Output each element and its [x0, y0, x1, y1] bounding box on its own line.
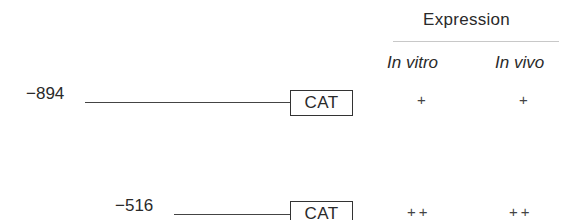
cat-reporter-box: CAT — [290, 201, 353, 220]
column-in-vitro: In vitro — [387, 53, 438, 73]
expression-in-vitro: + — [417, 91, 429, 108]
promoter-line — [85, 102, 291, 103]
column-in-vivo: In vivo — [495, 53, 544, 73]
expression-in-vivo: + — [519, 91, 531, 108]
header-divider — [393, 41, 559, 42]
construct-position-label: −894 — [26, 84, 64, 104]
construct-position-label: −516 — [115, 196, 153, 216]
expression-in-vivo: ++ — [509, 203, 533, 220]
expression-in-vitro: ++ — [407, 203, 431, 220]
cat-reporter-box: CAT — [290, 90, 353, 116]
promoter-line — [174, 214, 291, 215]
expression-header: Expression — [423, 10, 510, 30]
